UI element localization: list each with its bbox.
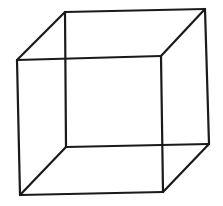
cube-edge-back-bottom-left-to-back-top-left bbox=[65, 12, 66, 147]
cube-edge-back-top-right-to-back-bottom-right bbox=[205, 9, 209, 144]
cube-edge-front-top-left-to-front-top-right bbox=[17, 56, 161, 60]
cube-edge-back-bottom-right-to-back-bottom-left bbox=[66, 144, 209, 147]
cube-edge-front-bottom-left-to-front-top-left bbox=[17, 60, 20, 195]
cube-edge-front-bottom-right-to-back-bottom-right bbox=[163, 144, 209, 192]
cube-edge-front-top-right-to-back-top-right bbox=[161, 9, 205, 56]
cube-edge-front-bottom-right-to-front-bottom-left bbox=[20, 192, 163, 195]
cube-edge-front-bottom-left-to-back-bottom-left bbox=[20, 147, 66, 195]
cube-edge-back-top-left-to-back-top-right bbox=[65, 9, 205, 12]
necker-cube-diagram bbox=[0, 0, 223, 206]
cube-edges bbox=[17, 9, 209, 195]
cube-edge-front-top-right-to-front-bottom-right bbox=[161, 56, 163, 192]
cube-edge-front-top-left-to-back-top-left bbox=[17, 12, 65, 60]
